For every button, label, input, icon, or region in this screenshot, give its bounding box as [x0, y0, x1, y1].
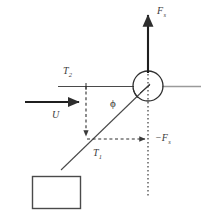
label-force-down-sub: s — [168, 138, 171, 145]
label-tension-2-base: T — [63, 65, 69, 76]
label-velocity: U — [52, 110, 59, 120]
label-angle-phi-symbol: ϕ — [110, 97, 116, 109]
label-tension-2: T2 — [63, 66, 72, 76]
label-force-down: −Fs — [155, 133, 170, 143]
label-tension-1: T1 — [93, 148, 102, 158]
label-force-up-sub: s — [163, 11, 166, 18]
label-velocity-base: U — [52, 109, 59, 120]
diagram-canvas — [0, 0, 209, 213]
label-tension-1-base: T — [93, 147, 99, 158]
label-angle-phi: ϕ — [110, 98, 116, 109]
block-rectangle — [33, 177, 81, 209]
force-diagram-figure: Fs −Fs T2 T1 U ϕ — [0, 0, 209, 213]
pulley-center-pointer — [140, 85, 150, 93]
label-tension-2-sub: 2 — [69, 71, 72, 78]
label-force-down-base: −F — [155, 132, 168, 143]
label-force-up: Fs — [157, 6, 166, 16]
angle-arc-phi — [133, 89, 138, 98]
label-tension-1-sub: 1 — [99, 153, 102, 160]
